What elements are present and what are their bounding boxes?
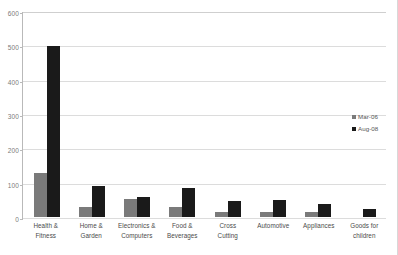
y-axis-tick-mark bbox=[20, 219, 23, 220]
x-axis-label: Food &Beverages bbox=[160, 221, 206, 240]
x-axis-label: Appliances bbox=[296, 221, 342, 240]
bar bbox=[305, 212, 318, 217]
y-axis-tick-mark bbox=[20, 150, 23, 151]
bar bbox=[79, 207, 92, 217]
bar-group bbox=[296, 12, 341, 217]
y-axis-tick-label: 0 bbox=[15, 216, 19, 223]
x-axis-labels: Health &FitnessHome &GardenElectronics &… bbox=[23, 221, 387, 240]
y-axis-tick-label: 200 bbox=[8, 147, 19, 154]
legend-label: Aug-08 bbox=[358, 125, 378, 132]
x-axis-label-line: Food & bbox=[161, 221, 205, 231]
bar bbox=[318, 204, 331, 217]
y-axis-tick-mark bbox=[20, 82, 23, 83]
x-axis-label-line: Automotive bbox=[252, 221, 296, 231]
x-axis-label: Health &Fitness bbox=[23, 221, 69, 240]
bar bbox=[215, 212, 228, 217]
y-axis-tick-mark bbox=[20, 116, 23, 117]
bar bbox=[47, 46, 60, 217]
x-axis-label: Electronics &Computers bbox=[114, 221, 160, 240]
x-axis-label-line: Cross bbox=[206, 221, 250, 231]
bar-group bbox=[24, 12, 69, 217]
x-axis-label-line: Beverages bbox=[161, 231, 205, 241]
plot-wrap: 0100200300400500600 bbox=[22, 12, 386, 219]
x-axis-label-line: Cutting bbox=[206, 231, 250, 241]
plot-area: 0100200300400500600 bbox=[22, 12, 386, 219]
x-axis-label-line: Home & bbox=[70, 221, 114, 231]
bar bbox=[34, 173, 47, 217]
y-axis-tick-mark bbox=[20, 47, 23, 48]
bar bbox=[363, 209, 376, 217]
y-axis-tick-label: 300 bbox=[8, 113, 19, 120]
gridline: 0 bbox=[23, 218, 386, 219]
legend-item[interactable]: Mar-06 bbox=[352, 113, 378, 120]
chart-legend: Mar-06Aug-08 bbox=[352, 113, 378, 132]
x-axis-label-line: Fitness bbox=[24, 231, 68, 241]
y-axis-tick-label: 400 bbox=[8, 78, 19, 85]
x-axis-label: CrossCutting bbox=[205, 221, 251, 240]
y-axis-tick-mark bbox=[20, 13, 23, 14]
x-axis-label: Home &Garden bbox=[69, 221, 115, 240]
bar-group bbox=[250, 12, 295, 217]
y-axis-tick-label: 100 bbox=[8, 181, 19, 188]
y-axis-tick-label: 600 bbox=[8, 10, 19, 17]
bars-layer bbox=[24, 12, 386, 217]
bar bbox=[169, 207, 182, 217]
y-axis-tick-mark bbox=[20, 185, 23, 186]
x-axis-label-line: Health & bbox=[24, 221, 68, 231]
legend-label: Mar-06 bbox=[358, 113, 378, 120]
bar bbox=[228, 201, 241, 217]
x-axis-label-line: Appliances bbox=[297, 221, 341, 231]
x-axis-label-line: Computers bbox=[115, 231, 159, 241]
bar bbox=[260, 212, 273, 217]
y-axis-tick-label: 500 bbox=[8, 44, 19, 51]
bar-group bbox=[69, 12, 114, 217]
legend-swatch-icon bbox=[352, 115, 356, 119]
legend-item[interactable]: Aug-08 bbox=[352, 125, 378, 132]
bar bbox=[92, 186, 105, 217]
x-axis-label-line: Goods for bbox=[343, 221, 387, 231]
bar-group bbox=[160, 12, 205, 217]
x-axis-label-line: Electronics & bbox=[115, 221, 159, 231]
bar bbox=[124, 199, 137, 217]
x-axis-label: Automotive bbox=[251, 221, 297, 240]
bar-chart: 0100200300400500600 Health &FitnessHome … bbox=[0, 0, 398, 255]
bar bbox=[273, 200, 286, 217]
x-axis-label: Goods forchildren bbox=[342, 221, 388, 240]
x-axis-label-line: Garden bbox=[70, 231, 114, 241]
bar-group bbox=[115, 12, 160, 217]
bar bbox=[137, 197, 150, 217]
bar bbox=[182, 188, 195, 217]
bar-group bbox=[205, 12, 250, 217]
x-axis-label-line: children bbox=[343, 231, 387, 241]
legend-swatch-icon bbox=[352, 127, 356, 131]
